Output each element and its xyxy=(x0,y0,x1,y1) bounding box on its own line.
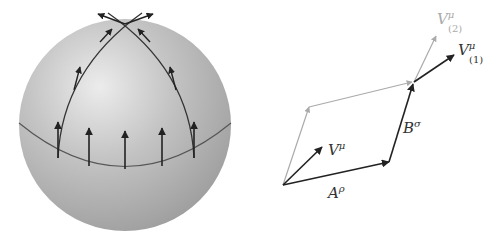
label-b-sigma: Bσ xyxy=(402,118,422,137)
parallelogram-figure: Vμ Aρ Bσ Vμ(1) Vμ(2) xyxy=(283,9,483,202)
label-a-rho: Aρ xyxy=(326,183,345,202)
diagram-canvas: Vμ Aρ Bσ Vμ(1) Vμ(2) xyxy=(0,0,504,236)
label-v-mu: Vμ xyxy=(328,140,345,159)
label-v2: Vμ(2) xyxy=(437,9,462,34)
sphere xyxy=(19,19,231,231)
label-v1: Vμ(1) xyxy=(458,40,483,65)
gray-side-a xyxy=(309,82,412,107)
a-rho-vector xyxy=(283,162,389,185)
sphere-figure xyxy=(19,13,231,231)
